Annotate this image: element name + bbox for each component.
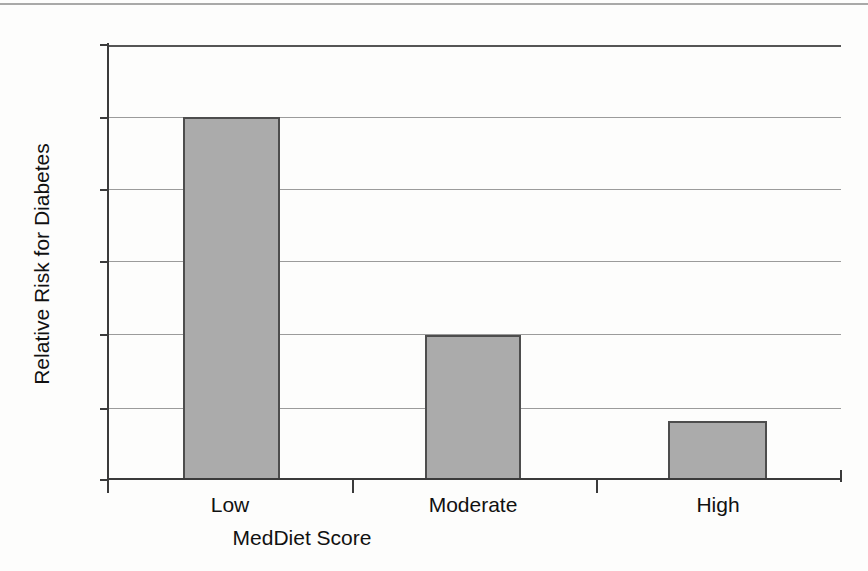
x-tick-mark-mod-high [596,480,598,493]
plot-area [108,45,841,480]
x-axis-right-end-tick [840,470,842,482]
x-axis-title: MedDiet Score [0,526,868,550]
x-tick-label-high: High [648,493,788,517]
gridline-1.2 [108,45,841,47]
bar-low[interactable] [183,117,280,480]
bar-high[interactable] [668,421,767,480]
x-tick-label-low: Low [160,493,300,517]
bar-moderate[interactable] [425,335,521,480]
chart-screenshot: Relative Risk for Diabetes 1.2 1 0.8 0.6… [0,0,868,571]
x-tick-label-moderate: Moderate [403,493,543,517]
x-tick-mark-low-mod [352,480,354,493]
x-tick-mark-start [107,480,109,493]
x-axis-title-text: MedDiet Score [233,526,372,550]
x-axis-line [107,478,842,480]
page-rule-artifact [0,3,868,5]
y-axis-line [107,43,109,482]
y-axis-title: Relative Risk for Diabetes [30,114,54,414]
